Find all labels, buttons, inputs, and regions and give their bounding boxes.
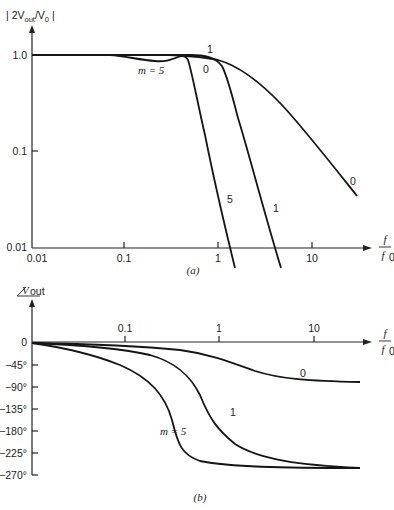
phase-curve-m5 [32, 343, 360, 468]
svg-text:f: f [383, 233, 388, 245]
y-axis-arrow-icon [29, 299, 35, 307]
panel-label-b: (b) [194, 491, 207, 504]
magnitude-x-label: f f 0 [379, 233, 394, 263]
phase-label-1: 1 [230, 406, 236, 418]
svg-text:0: 0 [389, 251, 394, 263]
y-tick-0.01: 0.01 [7, 241, 28, 253]
phase-tick-225: −225° [0, 447, 27, 459]
x-tick-0.01: 0.01 [27, 252, 48, 264]
magnitude-curve-m1 [32, 55, 281, 268]
magnitude-panel: | 2Vout/V0 | 1.0 0.1 0.01 0.01 0.1 1 10 … [6, 9, 394, 277]
svg-text:out: out [30, 285, 45, 297]
phase-tick-45: −45° [5, 359, 27, 371]
label-1: 1 [273, 202, 279, 214]
label-m5-top: m = 5 [138, 64, 165, 76]
phase-x-label: f f 0 [379, 327, 394, 357]
phase-curve-m1 [32, 343, 360, 468]
label-0-top: 0 [203, 63, 209, 75]
phase-x-tick-10: 10 [308, 322, 320, 334]
svg-text:f: f [381, 343, 386, 355]
phase-label-m5: m = 5 [160, 425, 187, 437]
phase-tick-90: −90° [5, 381, 27, 393]
label-0: 0 [350, 175, 356, 187]
x-tick-1: 1 [215, 252, 221, 264]
phase-panel: V out 0 −45° −90° −135° −180° −225° −270… [0, 284, 394, 504]
panel-label-a: (a) [187, 264, 200, 277]
phase-tick-180: −180° [0, 425, 27, 437]
label-5: 5 [227, 193, 233, 205]
phase-tick-135: −135° [0, 403, 27, 415]
y-tick-1: 1.0 [12, 49, 27, 61]
x-tick-0.1: 0.1 [117, 252, 132, 264]
svg-text:V: V [22, 284, 30, 296]
phase-tick-0: 0 [21, 336, 27, 348]
label-1-top: 1 [207, 43, 213, 55]
magnitude-curve-m0 [32, 55, 357, 196]
figure: | 2Vout/V0 | 1.0 0.1 0.01 0.01 0.1 1 10 … [0, 0, 394, 510]
phase-x-tick-1: 1 [216, 322, 222, 334]
phase-x-tick-0.1: 0.1 [118, 322, 133, 334]
x-tick-10: 10 [306, 252, 318, 264]
x-axis-arrow-icon [363, 245, 372, 251]
phase-curve-m0 [32, 343, 360, 382]
phase-tick-270: −270° [0, 469, 27, 481]
svg-text:f: f [383, 327, 388, 339]
y-axis-arrow-icon [29, 25, 35, 33]
svg-text:0: 0 [389, 345, 394, 357]
x-axis-arrow-icon [363, 339, 372, 345]
svg-text:f: f [381, 249, 386, 261]
magnitude-curve-m5 [32, 55, 235, 268]
phase-y-label: V out [17, 284, 45, 297]
y-tick-0.1: 0.1 [12, 145, 27, 157]
magnitude-y-label: | 2Vout/V0 | [6, 9, 55, 24]
phase-label-0: 0 [300, 367, 306, 379]
